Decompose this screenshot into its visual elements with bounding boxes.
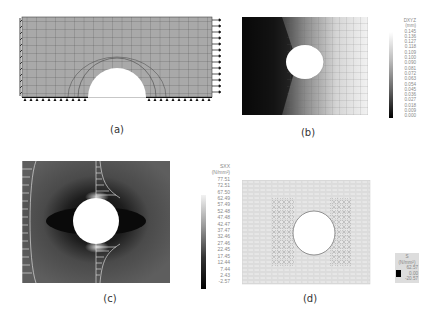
panel-d-stress-vectors	[242, 180, 372, 286]
stress-contour	[22, 161, 172, 285]
legend-stress-sxx: SXX (N/mm²) 77.51 72.51 67.50 62.49 57.4…	[196, 163, 230, 285]
load-arrows-icon	[212, 19, 221, 93]
legend-b-colorbar	[389, 32, 393, 118]
mesh-figure	[18, 14, 223, 104]
panel-b-displacement	[242, 17, 370, 117]
caption-a: (a)	[110, 124, 124, 135]
panel-c-stress-sxx	[22, 161, 172, 285]
panel-a-mesh	[18, 14, 223, 104]
caption-c: (c)	[103, 293, 116, 304]
displacement-contour	[242, 17, 370, 117]
bottom-supports-icon	[22, 97, 212, 101]
legend-c-colorbar	[201, 195, 206, 289]
legend-d-swatch	[396, 270, 401, 277]
legend-d-value: -20.57	[396, 276, 418, 282]
stress-vector-plot	[242, 180, 372, 286]
caption-b: (b)	[301, 127, 315, 138]
legend-b-value: 0.000	[382, 113, 416, 118]
legend-displacement: DXYZ (mm) 0.145 0.136 0.127 0.118 0.109 …	[382, 18, 416, 119]
legend-stress-vectors: S (N/mm²) 62.57 0.00 -20.57	[395, 253, 419, 283]
caption-d: (d)	[303, 293, 317, 304]
